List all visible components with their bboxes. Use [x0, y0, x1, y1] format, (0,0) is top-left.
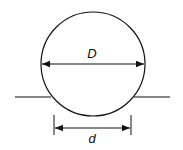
diameter-label: D	[87, 46, 96, 61]
diagram-canvas: D d	[0, 0, 183, 150]
contact-width-label: d	[88, 131, 96, 146]
